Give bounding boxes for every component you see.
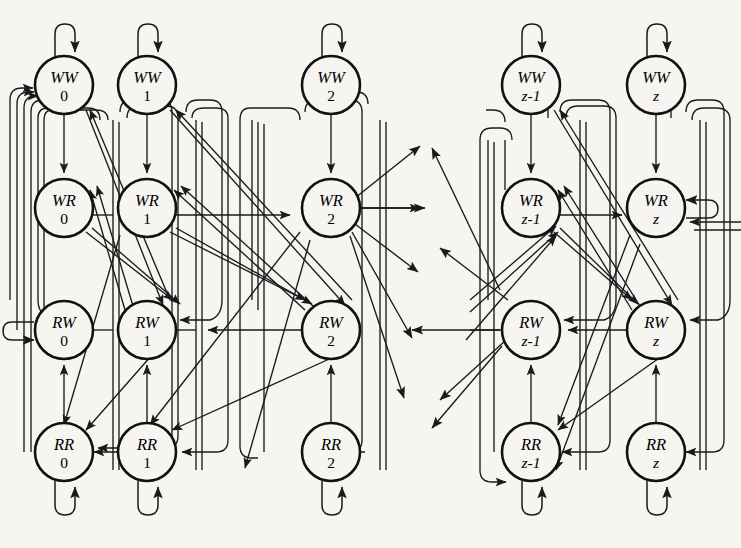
node-label-bottom: 1 bbox=[143, 87, 151, 104]
node-wwz1[interactable]: WWz-1 bbox=[502, 56, 560, 114]
node-label-bottom: 0 bbox=[60, 332, 68, 349]
node-ww1[interactable]: WW1 bbox=[118, 56, 176, 114]
node-label-top: WR bbox=[519, 191, 543, 210]
node-rw1[interactable]: RW1 bbox=[118, 301, 176, 359]
node-label-bottom: 2 bbox=[327, 332, 335, 349]
node-label-top: WR bbox=[644, 191, 668, 210]
node-label-bottom: 2 bbox=[327, 87, 335, 104]
node-label-top: RW bbox=[518, 313, 544, 332]
node-rwz[interactable]: RWz bbox=[627, 301, 685, 359]
self-loop-rw0-left bbox=[3, 322, 34, 340]
node-wwz[interactable]: WWz bbox=[627, 56, 685, 114]
node-label-bottom: z bbox=[652, 454, 659, 471]
self-loop-ww2-top bbox=[322, 24, 342, 58]
node-label-top: RR bbox=[136, 435, 157, 454]
node-wrz1[interactable]: WRz-1 bbox=[502, 179, 560, 237]
node-label-bottom: z-1 bbox=[521, 210, 541, 227]
node-label-top: WW bbox=[50, 68, 79, 87]
self-loop-wwz-top bbox=[647, 24, 667, 58]
self-loop-rr0-bottom bbox=[55, 481, 75, 515]
diagonal-edges-col1-col2 bbox=[150, 110, 352, 468]
node-label-bottom: z bbox=[652, 210, 659, 227]
node-label-bottom: 1 bbox=[143, 210, 151, 227]
self-loop-rrz1-bottom bbox=[522, 481, 542, 515]
node-ww0[interactable]: WW0 bbox=[35, 56, 93, 114]
node-label-top: RW bbox=[318, 313, 344, 332]
node-label-top: RR bbox=[320, 435, 341, 454]
node-label-top: WW bbox=[517, 68, 546, 87]
node-label-bottom: 2 bbox=[327, 210, 335, 227]
self-loop-ww0-top bbox=[55, 24, 75, 58]
node-label-bottom: 1 bbox=[143, 332, 151, 349]
right-group-outer-rails bbox=[480, 100, 730, 482]
node-label-top: RW bbox=[134, 313, 160, 332]
node-label-top: WR bbox=[135, 191, 159, 210]
node-label-bottom: z-1 bbox=[521, 87, 541, 104]
node-label-bottom: z-1 bbox=[521, 332, 541, 349]
diagonal-edges-col0-col1 bbox=[64, 110, 180, 430]
node-label-bottom: z bbox=[652, 332, 659, 349]
node-label-bottom: 0 bbox=[60, 87, 68, 104]
node-label-top: WR bbox=[319, 191, 343, 210]
diagram-canvas: WW0WW1WW2WWz-1WWzWR0WR1WR2WRz-1WRzRW0RW1… bbox=[0, 0, 741, 548]
node-label-bottom: 0 bbox=[60, 210, 68, 227]
node-rrz1[interactable]: RRz-1 bbox=[502, 423, 560, 481]
self-loop-rrz-bottom bbox=[647, 481, 667, 515]
node-label-top: WW bbox=[642, 68, 671, 87]
node-label-top: WW bbox=[133, 68, 162, 87]
node-rr1[interactable]: RR1 bbox=[118, 423, 176, 481]
dangling-arrows-left-outgoing bbox=[350, 146, 425, 398]
self-loop-wrz-right bbox=[686, 200, 718, 218]
node-label-bottom: 0 bbox=[60, 454, 68, 471]
self-loop-rr1-bottom bbox=[138, 481, 158, 515]
node-label-top: RR bbox=[520, 435, 541, 454]
left-group-inner-rails bbox=[113, 120, 386, 470]
node-rwz1[interactable]: RWz-1 bbox=[502, 301, 560, 359]
node-rr0[interactable]: RR0 bbox=[35, 423, 93, 481]
left-outer-feedback-rails bbox=[10, 88, 108, 452]
node-ww2[interactable]: WW2 bbox=[302, 56, 360, 114]
right-group-inner-rails bbox=[548, 60, 706, 470]
state-diagram: WW0WW1WW2WWz-1WWzWR0WR1WR2WRz-1WRzRW0RW1… bbox=[0, 0, 741, 548]
node-label-top: WR bbox=[52, 191, 76, 210]
node-rw2[interactable]: RW2 bbox=[302, 301, 360, 359]
node-label-top: RW bbox=[643, 313, 669, 332]
node-label-top: WW bbox=[317, 68, 346, 87]
node-label-top: RR bbox=[53, 435, 74, 454]
node-wr2[interactable]: WR2 bbox=[302, 179, 360, 237]
node-wr1[interactable]: WR1 bbox=[118, 179, 176, 237]
self-loop-rr2-bottom bbox=[322, 481, 342, 515]
node-label-top: RR bbox=[645, 435, 666, 454]
vertical-edges-rr-rw bbox=[64, 365, 656, 423]
node-rrz[interactable]: RRz bbox=[627, 423, 685, 481]
self-loop-wwz1-top bbox=[522, 24, 542, 58]
node-label-bottom: 2 bbox=[327, 454, 335, 471]
node-label-bottom: 1 bbox=[143, 454, 151, 471]
node-wrz[interactable]: WRz bbox=[627, 179, 685, 237]
node-wr0[interactable]: WR0 bbox=[35, 179, 93, 237]
node-label-top: RW bbox=[51, 313, 77, 332]
node-label-bottom: z bbox=[652, 87, 659, 104]
node-rw0[interactable]: RW0 bbox=[35, 301, 93, 359]
self-loop-ww1-top bbox=[138, 24, 158, 58]
node-label-bottom: z-1 bbox=[521, 454, 541, 471]
node-rr2[interactable]: RR2 bbox=[302, 423, 360, 481]
